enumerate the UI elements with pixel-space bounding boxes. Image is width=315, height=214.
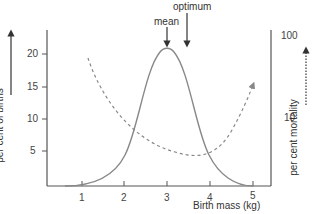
mean-label: mean <box>154 16 179 27</box>
y-tick-5: 5 <box>30 145 36 156</box>
chart-svg <box>0 0 315 214</box>
y-tick-20: 20 <box>27 48 38 59</box>
y-tick-15: 15 <box>27 81 38 92</box>
x-tick-3: 3 <box>164 192 170 203</box>
y-tick-10: 10 <box>27 113 38 124</box>
x-axis-label: Birth mass (kg) <box>193 200 260 211</box>
births-curve <box>65 48 253 186</box>
left-axis-label: per cent of births <box>0 88 5 162</box>
right-axis-label: per cent mortality <box>288 99 299 176</box>
x-tick-2: 2 <box>121 192 127 203</box>
optimum-label: optimum <box>173 1 211 12</box>
x-tick-1: 1 <box>79 192 85 203</box>
right-tick-100: 100 <box>281 30 298 41</box>
chart: mean optimum 20 15 10 5 1 2 3 4 5 Birth … <box>0 0 315 214</box>
mortality-curve <box>88 58 253 156</box>
